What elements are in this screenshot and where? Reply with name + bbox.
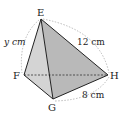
pyramid-diagram: E F G H y cm 12 cm 8 cm (0, 0, 126, 121)
measurement-ef: y cm (3, 37, 26, 47)
vertex-label-g: G (48, 102, 56, 113)
pyramid-figure: E F G H y cm 12 cm 8 cm (0, 0, 126, 121)
vertex-label-e: E (37, 7, 44, 18)
measurement-eh: 12 cm (77, 37, 105, 47)
vertex-label-f: F (13, 70, 20, 81)
vertex-label-h: H (110, 70, 119, 81)
measurement-gh: 8 cm (82, 90, 105, 100)
